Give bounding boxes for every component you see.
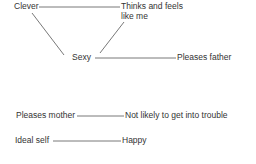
node-not-likely-trouble: Not likely to get into trouble xyxy=(125,111,228,120)
node-thinks-feels-line1: Thinks and feels xyxy=(121,2,183,11)
node-ideal-self: Ideal self xyxy=(15,136,49,145)
node-pleases-father: Pleases father xyxy=(177,53,231,62)
edge-clever-sexy xyxy=(32,13,64,55)
node-clever: Clever xyxy=(14,2,39,11)
node-pleases-mother: Pleases mother xyxy=(16,111,75,120)
association-diagram: Clever Thinks and feels like me Sexy Ple… xyxy=(0,0,256,164)
node-thinks-feels-line2: like me xyxy=(121,12,148,21)
edge-sexy-thinks xyxy=(100,22,124,53)
node-happy: Happy xyxy=(122,136,147,145)
node-sexy: Sexy xyxy=(72,53,91,62)
